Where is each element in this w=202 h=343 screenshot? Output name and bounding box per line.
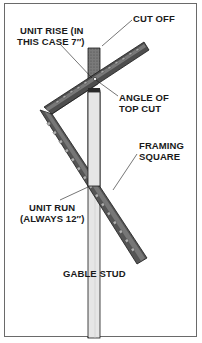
stud-top-edge — [88, 88, 100, 92]
label-unit-run-2: (ALWAYS 12″) — [20, 213, 85, 224]
framing-square-diagram — [0, 0, 202, 343]
label-framing-2: SQUARE — [139, 151, 180, 162]
label-gable-stud: GABLE STUD — [63, 268, 126, 279]
label-cut-off: CUT OFF — [133, 13, 175, 24]
label-unit-rise-1: UNIT RISE (IN — [20, 25, 84, 36]
stud-front-segment — [88, 92, 100, 186]
label-angle-1: ANGLE OF — [119, 92, 169, 103]
label-unit-rise-2: THIS CASE 7″) — [17, 36, 85, 47]
label-framing-1: FRAMING — [139, 140, 184, 151]
label-angle-2: TOP CUT — [119, 103, 161, 114]
label-unit-run-1: UNIT RUN — [29, 202, 75, 213]
